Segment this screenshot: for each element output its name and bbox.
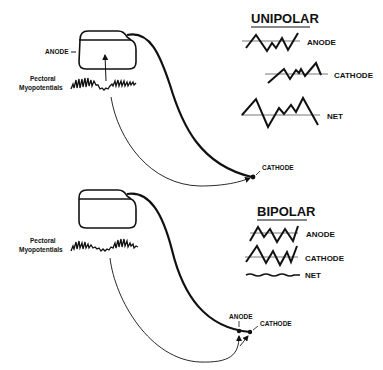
bipolar-heading: BIPOLAR	[257, 204, 316, 219]
bipolar-myo-label-1: Pectoral	[30, 237, 56, 244]
bipolar-section: Pectoral Myopotentials ANODE CATHODE BIP…	[19, 190, 345, 362]
bipolar-legend-cathode: CATHODE	[245, 246, 345, 265]
unipolar-legend-anode: ANODE	[242, 33, 337, 51]
unipolar-up-arrow	[105, 55, 106, 81]
unipolar-legend-net: NET	[241, 98, 343, 127]
bipolar-cathode-arrow	[240, 336, 248, 346]
bipolar-lead-cathode-label: CATHODE	[260, 320, 292, 327]
bipolar-legend-anode-label: ANODE	[306, 230, 336, 239]
unipolar-lead-wire	[127, 34, 252, 177]
bipolar-legend-net: NET	[246, 271, 321, 280]
bipolar-lead-wire	[127, 194, 250, 332]
unipolar-lead-cathode-label: CATHODE	[262, 164, 294, 171]
bipolar-anode-dot	[237, 329, 241, 333]
unipolar-myopotential-waveform	[71, 78, 136, 90]
unipolar-return-arc	[111, 97, 250, 186]
bipolar-lead-anode-label: ANODE	[229, 313, 253, 320]
diagram-svg: ANODE Pectoral Myopotentials CATHODE UNI…	[0, 0, 383, 370]
pacing-lead-diagram: ANODE Pectoral Myopotentials CATHODE UNI…	[0, 0, 383, 370]
unipolar-cathode-dot	[251, 175, 256, 180]
bipolar-myo-label-2: Myopotentials	[19, 246, 63, 254]
unipolar-heading: UNIPOLAR	[251, 11, 320, 26]
bipolar-legend-net-label: NET	[305, 271, 321, 280]
unipolar-section: ANODE Pectoral Myopotentials CATHODE UNI…	[19, 11, 374, 186]
unipolar-legend-anode-label: ANODE	[307, 38, 337, 47]
unipolar-pacemaker-icon	[79, 31, 136, 69]
unipolar-myo-label-1: Pectoral	[30, 75, 56, 82]
unipolar-legend-cathode-label: CATHODE	[334, 71, 374, 80]
cathode-label-leader	[256, 171, 260, 175]
unipolar-legend-net-label: NET	[327, 112, 343, 121]
bipolar-myopotential-waveform	[71, 239, 138, 251]
bipolar-legend-cathode-label: CATHODE	[305, 254, 345, 263]
bipolar-pacemaker-icon	[79, 190, 136, 228]
bipolar-legend-anode: ANODE	[250, 226, 336, 242]
unipolar-myo-label-2: Myopotentials	[19, 84, 63, 92]
bipolar-cathode-dot	[248, 330, 252, 334]
unipolar-legend-cathode: CATHODE	[265, 63, 374, 83]
unipolar-can-anode-label: ANODE	[45, 48, 69, 55]
bipolar-cathode-leader	[253, 326, 258, 330]
bipolar-return-arc	[110, 258, 239, 362]
